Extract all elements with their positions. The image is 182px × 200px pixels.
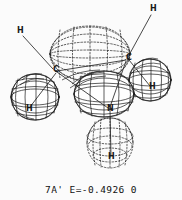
atom-label-h-upper-right: H	[150, 5, 157, 13]
lobe-right-positive	[129, 59, 171, 101]
molecular-orbital-figure: H H C C N H H H 7A' E=-0.4926 0	[0, 0, 182, 200]
leader-h-upper-right	[128, 15, 151, 57]
orbital-caption: 7A' E=-0.4926 0	[45, 184, 137, 195]
leader-h-upper-left	[23, 36, 53, 69]
caption-bar: 7A' E=-0.4926 0	[0, 178, 182, 200]
atom-label-c-left: C	[53, 66, 59, 74]
atom-label-c-right: C	[126, 54, 132, 62]
atom-label-h-right-lobe: H	[149, 83, 156, 91]
atom-label-h-left-lobe: H	[26, 105, 33, 113]
atom-label-h-bottom: H	[108, 153, 115, 161]
atom-label-h-upper-left: H	[17, 27, 24, 35]
atom-label-n-center: N	[107, 105, 114, 113]
